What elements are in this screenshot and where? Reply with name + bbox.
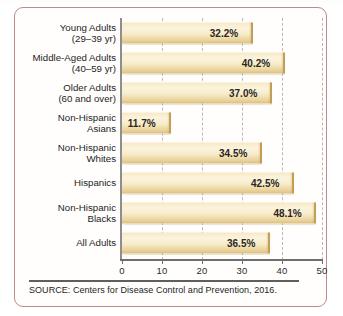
chart-plot-area: Young Adults(29–39 yr)32.2%Middle-Aged A… (15, 8, 326, 276)
x-axis-line (120, 259, 323, 261)
x-tick-label: 10 (157, 265, 168, 276)
y-axis-line (120, 18, 122, 260)
bar-value-label: 36.5% (227, 238, 255, 249)
category-label: Young Adults(29–39 yr) (0, 22, 116, 45)
bar-value-label: 34.5% (219, 148, 247, 159)
bar-row: All Adults36.5% (15, 228, 326, 258)
category-label-line2: (40–59 yr) (0, 63, 116, 74)
category-label-line2: Whites (0, 153, 116, 164)
category-label: Non-HispanicBlacks (0, 202, 116, 225)
tick-mark-0 (122, 259, 123, 264)
bar-value-label: 11.7% (128, 118, 156, 129)
source-note: SOURCE: Centers for Disease Control and … (29, 285, 277, 295)
bar-value-label: 40.2% (242, 58, 270, 69)
category-label: All Adults (0, 237, 116, 248)
category-label: Non-HispanicWhites (0, 142, 116, 165)
clipped-title-sliver (0, 0, 343, 6)
category-label-line1: Middle-Aged Adults (33, 52, 116, 63)
category-label-line2: (60 and over) (0, 93, 116, 104)
bar-row: Non-HispanicBlacks48.1% (15, 198, 326, 228)
x-tick-label: 50 (317, 265, 328, 276)
bar-row: Hispanics42.5% (15, 168, 326, 198)
bar-row: Older Adults(60 and over)37.0% (15, 78, 326, 108)
category-label-line1: Hispanics (74, 177, 116, 188)
tick-mark-30 (242, 259, 243, 264)
category-label-line1: Non-Hispanic (58, 202, 116, 213)
figure-frame: Young Adults(29–39 yr)32.2%Middle-Aged A… (14, 7, 327, 307)
category-label-line1: Young Adults (60, 22, 116, 33)
bar-value-label: 32.2% (210, 28, 238, 39)
category-label-line1: Non-Hispanic (58, 142, 116, 153)
bar-row: Non-HispanicWhites34.5% (15, 138, 326, 168)
category-label: Middle-Aged Adults(40–59 yr) (0, 52, 116, 75)
x-tick-label: 30 (237, 265, 248, 276)
tick-mark-10 (162, 259, 163, 264)
bar-row: Non-HispanicAsians11.7% (15, 108, 326, 138)
source-divider (29, 280, 299, 282)
bar-row: Middle-Aged Adults(40–59 yr)40.2% (15, 48, 326, 78)
tick-mark-20 (202, 259, 203, 264)
tick-mark-50 (322, 259, 323, 264)
bar-value-label: 42.5% (251, 178, 279, 189)
category-label-line1: All Adults (76, 237, 116, 248)
x-tick-label: 40 (277, 265, 288, 276)
category-label-line2: (29–39 yr) (0, 33, 116, 44)
bar-value-label: 37.0% (229, 88, 257, 99)
category-label: Older Adults(60 and over) (0, 82, 116, 105)
x-tick-label: 20 (197, 265, 208, 276)
category-label-line1: Older Adults (63, 82, 116, 93)
category-label: Non-HispanicAsians (0, 112, 116, 135)
category-label-line1: Non-Hispanic (58, 112, 116, 123)
bar-value-label: 48.1% (273, 208, 301, 219)
category-label-line2: Asians (0, 123, 116, 134)
x-tick-label: 0 (119, 265, 124, 276)
category-label: Hispanics (0, 177, 116, 188)
category-label-line2: Blacks (0, 213, 116, 224)
tick-mark-40 (282, 259, 283, 264)
bar-row: Young Adults(29–39 yr)32.2% (15, 18, 326, 48)
